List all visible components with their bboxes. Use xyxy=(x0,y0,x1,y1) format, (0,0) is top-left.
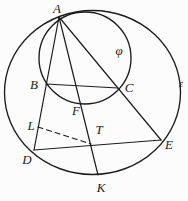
outer-circle-epsilon xyxy=(5,11,181,175)
dashed-segment-LT xyxy=(38,127,91,144)
chord-BC xyxy=(46,84,118,88)
inner-circle-phi xyxy=(39,12,131,104)
label-F: F xyxy=(71,103,81,118)
label-phi: φ xyxy=(115,43,122,58)
label-B: B xyxy=(30,77,38,92)
label-epsilon: ε xyxy=(179,78,183,89)
figure-canvas: A B C F L T D E K φ ε xyxy=(0,0,188,201)
label-D: D xyxy=(21,152,32,167)
label-C: C xyxy=(125,80,134,95)
label-E: E xyxy=(164,137,173,152)
label-K: K xyxy=(96,180,107,195)
label-T: T xyxy=(95,122,103,137)
label-A: A xyxy=(52,1,61,16)
label-L: L xyxy=(26,118,34,133)
line-DE xyxy=(34,140,161,150)
geometry-figure: A B C F L T D E K φ ε xyxy=(0,0,188,201)
